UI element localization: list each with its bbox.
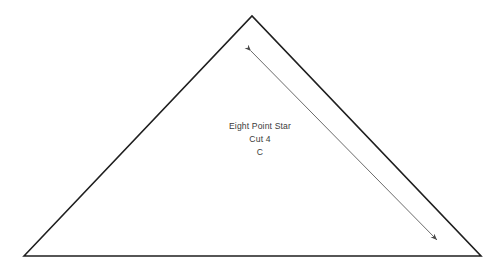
pattern-label-group: Eight Point Star Cut 4 C [160,120,360,159]
piece-letter: C [160,146,360,159]
pattern-canvas: Eight Point Star Cut 4 C [0,0,500,271]
cut-instruction: Cut 4 [160,133,360,146]
pattern-title: Eight Point Star [160,120,360,133]
